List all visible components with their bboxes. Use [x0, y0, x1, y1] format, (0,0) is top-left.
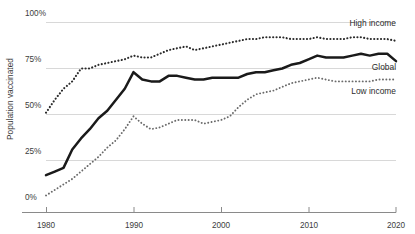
y-tick-label-0: 0%: [25, 193, 37, 202]
chart-canvas: 100% 75% 50% 25% 0% Population vaccinate…: [0, 0, 415, 234]
series-label-low-income: Low income: [351, 86, 396, 96]
x-axis: [22, 207, 396, 213]
series-label-global: Global: [372, 62, 396, 72]
y-tick-label-50: 50%: [25, 101, 41, 110]
gridlines: [46, 23, 396, 161]
x-axis-tick-labels: 1980 1990 2000 2010 2020: [37, 221, 406, 230]
x-tick-label-1980: 1980: [37, 221, 56, 230]
series-lines: [46, 37, 396, 195]
y-axis-title-group: Population vaccinated: [5, 58, 15, 140]
x-tick-label-2010: 2010: [300, 221, 319, 230]
series-label-high-income: High income: [349, 18, 396, 28]
x-tick-label-1990: 1990: [125, 221, 144, 230]
series-line-high-income: [46, 37, 396, 112]
x-tick-label-2020: 2020: [387, 221, 406, 230]
y-tick-label-75: 75%: [25, 55, 41, 64]
y-tick-label-25: 25%: [25, 147, 41, 156]
series-line-low-income: [46, 78, 396, 196]
x-tick-label-2000: 2000: [212, 221, 231, 230]
vaccination-line-chart: 100% 75% 50% 25% 0% Population vaccinate…: [0, 0, 415, 234]
y-tick-label-100: 100%: [25, 9, 46, 18]
y-axis-title: Population vaccinated: [5, 58, 15, 140]
y-axis-tick-labels: 100% 75% 50% 25% 0%: [25, 9, 46, 202]
